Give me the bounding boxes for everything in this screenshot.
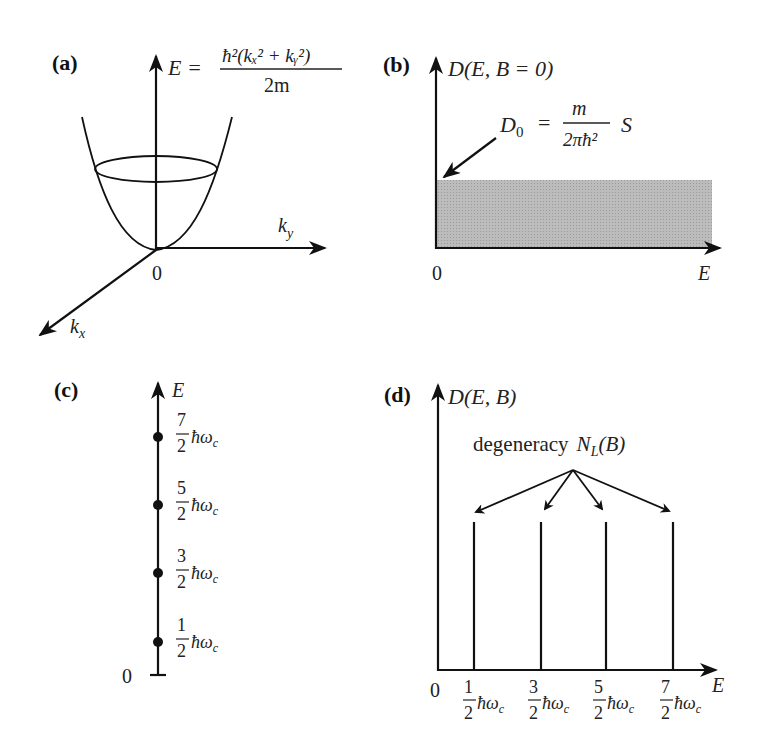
landau-level-7-2: 7 2 ħωc — [153, 410, 219, 456]
ky-label: ky — [278, 214, 294, 241]
svg-text:2: 2 — [177, 504, 186, 524]
panel-b-label: (b) — [383, 52, 410, 77]
svg-text:ħωc: ħωc — [477, 693, 505, 716]
panel-a: (a) E = ħ²(kₓ² + kᵧ²) 2m ky kx 0 — [40, 45, 342, 341]
formula-denominator: 2m — [264, 74, 290, 96]
dos-axis-label: D(E, B) — [447, 384, 516, 409]
svg-text:7: 7 — [177, 410, 186, 430]
energy-axis-label: E — [711, 674, 724, 696]
level-dot — [153, 637, 163, 647]
svg-text:3: 3 — [177, 546, 186, 566]
d0-equals: = — [538, 110, 550, 135]
svg-text:7: 7 — [661, 677, 670, 697]
svg-text:2: 2 — [661, 703, 670, 723]
origin-label: 0 — [432, 262, 442, 284]
landau-levels-figure: (a) E = ħ²(kₓ² + kᵧ²) 2m ky kx 0 (b) D(E… — [0, 0, 765, 756]
svg-text:5: 5 — [594, 677, 603, 697]
density-of-states-fill — [437, 180, 712, 248]
d0-symbol: D0 — [499, 112, 523, 140]
degeneracy-arrows — [476, 470, 669, 512]
tick-3-2: 3 2 ħωc — [528, 677, 570, 723]
svg-text:ħωc: ħωc — [674, 693, 702, 716]
d0-pointer-arrow — [444, 138, 496, 177]
svg-text:ħωc: ħωc — [191, 427, 219, 450]
landau-level-3-2: 3 2 ħωc — [153, 546, 219, 592]
svg-text:ħωc: ħωc — [191, 563, 219, 586]
d0-numerator: m — [572, 97, 586, 119]
area-symbol: S — [621, 112, 632, 137]
kx-label: kx — [70, 315, 86, 341]
dos-axis-label: D(E, B = 0) — [447, 56, 553, 81]
origin-label: 0 — [152, 262, 162, 284]
panel-b: (b) D(E, B = 0) D0 = m 2πħ² S 0 E — [383, 52, 720, 284]
energy-axis-label: E — [697, 262, 710, 284]
panel-a-label: (a) — [52, 50, 78, 75]
kx-axis — [40, 250, 156, 335]
panel-c: (c) 0 E 7 2 ħωc 5 2 ħωc 3 2 ħωc — [54, 377, 219, 687]
landau-level-5-2: 5 2 ħωc — [153, 478, 219, 524]
tick-7-2: 7 2 ħωc — [660, 677, 702, 723]
tick-1-2: 1 2 ħωc — [463, 677, 505, 723]
panel-c-label: (c) — [54, 377, 78, 402]
level-dot — [153, 432, 163, 442]
svg-text:1: 1 — [464, 677, 473, 697]
svg-text:2: 2 — [594, 703, 603, 723]
svg-text:2: 2 — [464, 703, 473, 723]
panel-d: (d) D(E, B) degeneracyNL(B) 0 E 1 2 ħωc … — [384, 382, 724, 723]
svg-text:ħωc: ħωc — [607, 693, 635, 716]
svg-text:5: 5 — [177, 478, 186, 498]
formula-lhs: E = — [167, 55, 202, 80]
svg-text:1: 1 — [177, 615, 186, 635]
svg-text:2: 2 — [177, 572, 186, 592]
svg-text:ħωc: ħωc — [191, 632, 219, 655]
svg-text:3: 3 — [529, 677, 538, 697]
svg-text:2: 2 — [177, 436, 186, 456]
svg-text:2: 2 — [177, 641, 186, 661]
energy-axis-label: E — [171, 379, 184, 401]
svg-text:ħωc: ħωc — [191, 495, 219, 518]
origin-label: 0 — [430, 679, 440, 701]
panel-d-label: (d) — [384, 382, 411, 407]
origin-label: 0 — [122, 665, 132, 687]
formula-numerator: ħ²(kₓ² + kᵧ²) — [222, 45, 310, 67]
svg-text:ħωc: ħωc — [542, 693, 570, 716]
tick-5-2: 5 2 ħωc — [593, 677, 635, 723]
degeneracy-label: degeneracyNL(B) — [473, 432, 625, 459]
landau-level-1-2: 1 2 ħωc — [153, 615, 219, 661]
svg-text:2: 2 — [529, 703, 538, 723]
level-dot — [153, 500, 163, 510]
d0-denominator: 2πħ² — [563, 129, 598, 150]
level-dot — [153, 568, 163, 578]
